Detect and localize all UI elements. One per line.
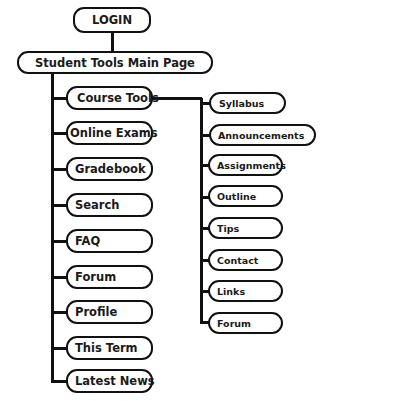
node-label: Student Tools Main Page (35, 56, 195, 70)
branch-tick (51, 240, 67, 243)
assignments-node: Assignments (208, 154, 283, 176)
node-label: Announcements (218, 130, 304, 141)
connector-login-main (111, 32, 114, 52)
branch-tick (51, 97, 67, 100)
student-tools-main-page-node: Student Tools Main Page (17, 51, 213, 74)
course-tools-node: Course Tools (66, 86, 153, 110)
latest-news-node: Latest News (66, 369, 153, 393)
node-label: Tips (217, 223, 239, 234)
node-label: Gradebook (75, 162, 146, 176)
branch-tick (51, 311, 67, 314)
node-label: Latest News (75, 374, 155, 388)
node-label: Forum (75, 270, 116, 284)
login-node: LOGIN (73, 7, 151, 33)
node-label: Contact (217, 255, 258, 266)
branch-tick (51, 132, 67, 135)
branch-tick (51, 380, 67, 383)
online-exams-node: Online Exams (66, 121, 153, 145)
gradebook-node: Gradebook (66, 157, 153, 181)
node-label: Search (75, 198, 120, 212)
contact-node: Contact (208, 249, 283, 271)
node-label: Links (217, 286, 245, 297)
left-trunk (51, 72, 54, 382)
profile-node: Profile (66, 300, 153, 324)
forum-node: Forum (66, 265, 153, 289)
node-label: Forum (217, 318, 251, 329)
node-label: This Term (75, 341, 138, 355)
node-label: FAQ (75, 234, 100, 248)
tips-node: Tips (208, 217, 283, 239)
faq-node: FAQ (66, 229, 153, 253)
outline-node: Outline (208, 185, 283, 207)
node-label: Assignments (217, 160, 286, 171)
node-label: LOGIN (92, 13, 132, 27)
branch-tick (51, 347, 67, 350)
links-node: Links (208, 280, 283, 302)
this-term-node: This Term (66, 336, 153, 360)
node-label: Syllabus (219, 98, 264, 109)
announcements-node: Announcements (209, 124, 316, 146)
course-forum-node: Forum (208, 312, 283, 334)
syllabus-node: Syllabus (209, 92, 286, 114)
branch-tick (51, 276, 67, 279)
node-label: Online Exams (70, 126, 158, 140)
search-node: Search (66, 193, 153, 217)
node-label: Profile (75, 305, 117, 319)
node-label: Outline (217, 191, 256, 202)
node-label: Course Tools (77, 91, 159, 105)
branch-tick (51, 168, 67, 171)
branch-tick (51, 204, 67, 207)
